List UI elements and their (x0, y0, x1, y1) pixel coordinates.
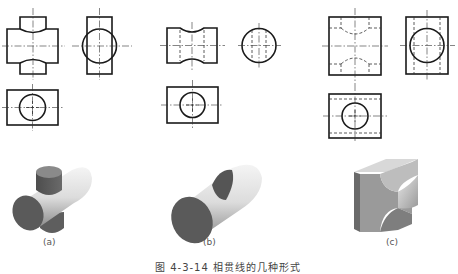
panel-c-3d-model (354, 159, 418, 232)
panel-c-side-view (400, 10, 455, 80)
panel-b-front-view (160, 22, 225, 70)
panel-b-side-view (238, 23, 281, 68)
panel-a-front-view (2, 8, 65, 80)
panel-a-label: (a) (43, 237, 56, 247)
panel-a-top-view (2, 84, 63, 131)
panel-a-3d-model (7, 166, 92, 236)
panel-b-top-view (161, 80, 223, 128)
panel-b-label: (b) (203, 237, 216, 247)
figure-caption: 图 4-3-14 相贯线的几种形式 (155, 259, 301, 274)
panel-c-front-view (322, 8, 388, 84)
panel-c-label: (c) (386, 237, 398, 247)
panel-a-side-view (72, 8, 132, 80)
panel-c-top-view (323, 84, 387, 143)
